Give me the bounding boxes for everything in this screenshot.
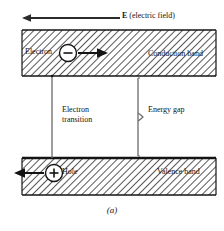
energy-gap-label: Energy gap	[148, 105, 188, 115]
electric-field-label: E (electric field)	[122, 11, 175, 20]
hole-label: Hole	[62, 167, 78, 176]
energy-gap-brace	[138, 78, 143, 156]
electric-field-text: (electric field)	[127, 11, 175, 20]
semiconductor-band-diagram: E (electric field) Electron Conduction b…	[0, 0, 224, 231]
hole-particle	[46, 165, 63, 182]
figure-caption: (a)	[0, 206, 224, 215]
valence-band-label: Valence band	[157, 167, 200, 176]
conduction-band-label: Conduction band	[148, 49, 203, 58]
band-diagram-graphic	[0, 0, 224, 231]
electron-label: Electron	[25, 47, 52, 56]
electron-transition-line	[51, 75, 54, 158]
electron-transition-label: Electron transition	[62, 105, 110, 124]
electron-particle	[60, 45, 77, 62]
electric-field-arrow	[22, 14, 120, 22]
